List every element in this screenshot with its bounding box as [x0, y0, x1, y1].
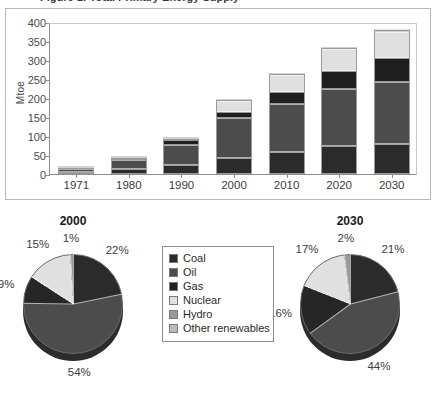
x-tick-label: 2030: [379, 179, 405, 191]
bar-segment: [111, 160, 147, 169]
pie-slice-percent-label: 15%: [26, 238, 49, 250]
bar-segment: [163, 165, 199, 175]
bar-segment: [374, 29, 410, 31]
legend-item: Other renewables: [169, 322, 267, 335]
y-tick-label: 50: [34, 150, 46, 162]
bar-segment: [269, 75, 305, 92]
bar-segment: [58, 166, 94, 168]
x-tick-mark: [234, 174, 235, 178]
x-tick-label: 1971: [63, 179, 89, 191]
bar-segment: [374, 144, 410, 174]
figure-title: Figure 1: Total Primary Energy Supply: [40, 0, 239, 3]
pie-slice-percent-label: 1%: [63, 232, 80, 244]
bar-segment: [163, 145, 199, 165]
bar-segment: [58, 169, 94, 172]
y-tick-label: 400: [28, 17, 46, 29]
pie-slice-percent-label: 44%: [367, 360, 390, 372]
x-tick-label: 2020: [326, 179, 352, 191]
x-tick-label: 1980: [116, 179, 142, 191]
cutoff-title-strip: Figure 1: Total Primary Energy Supply: [0, 0, 436, 7]
pie-chart-2000: 22%54%9%15%1%: [23, 254, 123, 361]
y-axis-label: Mtoe: [15, 63, 26, 123]
legend-item: Gas: [169, 280, 267, 293]
legend-swatch-icon: [169, 282, 178, 291]
y-tick-mark: [46, 61, 50, 62]
x-tick-mark: [392, 174, 393, 178]
legend-item-label: Nuclear: [183, 295, 221, 306]
y-tick-label: 150: [28, 112, 46, 124]
legend-item: Coal: [169, 252, 267, 265]
x-tick-label: 2000: [221, 179, 247, 191]
pie-title-2000: 2000: [60, 214, 87, 228]
pie-chart-2030: 21%44%16%17%2%: [300, 254, 400, 361]
y-tick-label: 200: [28, 93, 46, 105]
legend-item: Nuclear: [169, 294, 267, 307]
legend-item-label: Other renewables: [183, 323, 270, 334]
pie-slice-percent-label: 17%: [296, 243, 319, 255]
bar-segment: [216, 118, 252, 158]
legend-swatch-icon: [169, 296, 178, 305]
bar-segment: [163, 140, 199, 145]
bar-segment: [374, 32, 410, 58]
bar-plot-area: 0501001502002503003504001971198019902000…: [49, 23, 417, 175]
x-tick-label: 2010: [274, 179, 300, 191]
bar-segment: [111, 156, 147, 158]
bar-segment: [269, 104, 305, 152]
bar-segment: [321, 71, 357, 89]
bar-segment: [269, 152, 305, 174]
pie-title-2030: 2030: [337, 214, 364, 228]
pie-slice-percent-label: 22%: [106, 244, 129, 256]
y-tick-mark: [46, 118, 50, 119]
bar-segment: [216, 99, 252, 101]
bar-segment: [269, 92, 305, 105]
x-tick-mark: [339, 174, 340, 178]
x-tick-label: 1990: [169, 179, 195, 191]
bar-segment: [321, 146, 357, 175]
legend-swatch-icon: [169, 324, 178, 333]
pie-slice-percent-label: 9%: [0, 278, 14, 290]
pie-slice-percent-label: 54%: [68, 366, 91, 378]
y-tick-label: 100: [28, 131, 46, 143]
y-tick-mark: [46, 23, 50, 24]
y-tick-mark: [46, 137, 50, 138]
bar-segment: [374, 58, 410, 82]
y-tick-mark: [46, 156, 50, 157]
y-tick-mark: [46, 80, 50, 81]
pie-slice-percent-label: 21%: [381, 243, 404, 255]
bar-segment: [321, 47, 357, 49]
y-tick-label: 350: [28, 36, 46, 48]
legend-swatch-icon: [169, 254, 178, 263]
pie-slice-percent-label: 2%: [338, 232, 355, 244]
bar-segment: [216, 101, 252, 112]
x-tick-mark: [287, 174, 288, 178]
legend-swatch-icon: [169, 268, 178, 277]
x-tick-mark: [76, 174, 77, 178]
bar-segment: [216, 112, 252, 118]
figure-root: Figure 1: Total Primary Energy Supply Mt…: [0, 0, 436, 396]
y-tick-label: 300: [28, 55, 46, 67]
bar-segment: [163, 137, 199, 139]
y-tick-mark: [46, 42, 50, 43]
legend-swatch-icon: [169, 310, 178, 319]
y-tick-label: 250: [28, 74, 46, 86]
bar-segment: [374, 82, 410, 144]
y-tick-mark: [46, 175, 50, 176]
x-tick-mark: [129, 174, 130, 178]
bar-segment: [321, 89, 357, 146]
y-tick-mark: [46, 99, 50, 100]
pies-and-legend: 2000 22%54%9%15%1% 2030 21%44%16%17%2% C…: [0, 200, 436, 396]
legend-item-label: Oil: [183, 267, 196, 278]
legend-item-label: Coal: [183, 253, 206, 264]
legend-item-label: Gas: [183, 281, 203, 292]
x-tick-mark: [181, 174, 182, 178]
bar-segment: [269, 73, 305, 75]
bar-chart-panel: Mtoe 05010015020025030035040019711980199…: [5, 8, 431, 200]
chart-legend: CoalOilGasNuclearHydroOther renewables: [162, 246, 274, 342]
legend-item-label: Hydro: [183, 309, 212, 320]
legend-item: Oil: [169, 266, 267, 279]
legend-item: Hydro: [169, 308, 267, 321]
bar-segment: [321, 49, 357, 71]
bar-segment: [216, 158, 252, 174]
